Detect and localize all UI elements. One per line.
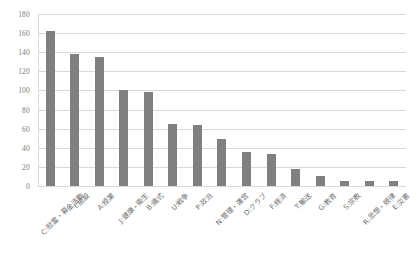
bar-slot [185,14,210,186]
bar-slot [332,14,357,186]
bar-slot [136,14,161,186]
bar-slot [381,14,406,186]
y-axis-tick-label: 180 [18,10,30,19]
bar[interactable] [95,57,104,186]
x-label-slot: B:儀式 [136,188,161,258]
x-label-slot: E:災害 [381,188,406,258]
y-axis-tick-label: 120 [18,67,30,76]
bar-slot [112,14,137,186]
bar-chart: 180160140120100806040200 C:慰霊・募金活動I:施設A:… [0,0,417,260]
bar[interactable] [193,125,202,186]
bar-slot [357,14,382,186]
bar-slot [210,14,235,186]
bar-slot [283,14,308,186]
bar-slot [308,14,333,186]
bar[interactable] [291,169,300,186]
bar-slot [259,14,284,186]
bar[interactable] [217,139,226,186]
bar-slot [38,14,63,186]
y-axis-tick-label: 160 [18,29,30,38]
bar[interactable] [389,181,398,186]
x-label-slot: J:健康・衛生 [112,188,137,258]
x-label-slot: G:教育 [308,188,333,258]
bar[interactable] [168,124,177,186]
y-axis-tick-label: 80 [22,105,30,114]
y-axis-tick-label: 100 [18,86,30,95]
bar[interactable] [144,92,153,186]
bar[interactable] [46,31,55,186]
x-axis-category-labels: C:慰霊・募金活動I:施設A:授業J:健康・衛生B:儀式U:戦争P:政治N:管理… [38,188,406,258]
bar-slot [87,14,112,186]
bar[interactable] [365,181,374,186]
bar[interactable] [119,90,128,187]
bar[interactable] [242,152,251,186]
y-axis-tick-label: 40 [22,143,30,152]
y-axis-tick-label: 20 [22,162,30,171]
x-label-slot: C:慰霊・募金活動 [38,188,63,258]
plot-area [38,14,406,186]
x-label-slot: P:政治 [185,188,210,258]
x-label-slot: U:戦争 [161,188,186,258]
x-label-slot: R:思想・規律 [357,188,382,258]
y-axis-tick-labels: 180160140120100806040200 [0,14,34,186]
x-label-slot: I:施設 [63,188,88,258]
y-axis-tick-label: 140 [18,48,30,57]
bar[interactable] [316,176,325,186]
x-axis-category-label: E:災害 [389,190,411,212]
gridline [38,186,406,187]
bar[interactable] [267,154,276,186]
x-label-slot: A:授業 [87,188,112,258]
bar-slot [63,14,88,186]
bar-series [38,14,406,186]
bar[interactable] [70,54,79,186]
bar[interactable] [340,181,349,186]
x-label-slot: S:宗教 [332,188,357,258]
y-axis-tick-label: 0 [26,182,30,191]
x-label-slot: D:クラブ [234,188,259,258]
x-label-slot: N:管理・運営 [210,188,235,258]
x-label-slot: F:経済 [259,188,284,258]
y-axis-tick-label: 60 [22,124,30,133]
bar-slot [234,14,259,186]
bar-slot [161,14,186,186]
x-label-slot: T:輸送 [283,188,308,258]
